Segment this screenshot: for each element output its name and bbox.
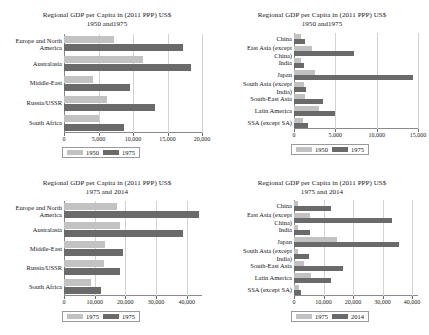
category-label: Middle-East	[30, 80, 62, 88]
x-axis-tick-label: 15,000	[159, 136, 176, 142]
legend-item-1: 1975	[332, 146, 364, 153]
bar-series1	[294, 106, 319, 110]
plot-area-bottom-left: 010,00020,00030,00040,000Europe and Nort…	[64, 201, 202, 296]
bar-series1	[64, 203, 117, 210]
category-row: South Africa	[64, 277, 202, 296]
legend-label-series1: 1950	[315, 146, 328, 153]
category-label: China	[276, 35, 292, 43]
x-axis-tick-label: 30,000	[374, 299, 391, 305]
category-label: South Africa	[29, 119, 62, 127]
bar-series2	[64, 84, 130, 91]
bar-series2	[294, 75, 413, 79]
bar-series1	[294, 201, 298, 205]
legend-item-0: 1975	[296, 313, 328, 320]
legend-label-series2: 1975	[122, 149, 135, 156]
bar-series2	[294, 123, 308, 127]
category-label: Latin America	[255, 274, 292, 282]
category-row: Australasia	[64, 220, 202, 239]
bar-series2	[294, 278, 331, 282]
category-row: Latin America	[294, 105, 418, 117]
category-label: Latin America	[255, 107, 292, 115]
category-row: Japan	[294, 69, 418, 81]
bar-series2	[294, 266, 343, 270]
x-axis-tick-label: 20,000	[345, 299, 362, 305]
bar-series2	[294, 63, 304, 67]
bar-series1	[294, 261, 304, 265]
legend-swatch-series2	[103, 150, 119, 155]
chart-title-bottom-left: Regional GDP per Capita in (2011 PPP) US…	[0, 179, 214, 196]
plot-area-top-left: 05,00010,00015,00020,000Europe and North…	[64, 34, 202, 133]
category-row: China	[294, 33, 418, 45]
category-row: South Africa	[64, 113, 202, 133]
chart-panel-bottom-left: Regional GDP per Capita in (2011 PPP) US…	[0, 168, 214, 335]
legend-swatch-series1	[67, 314, 83, 319]
legend-item-1: 1975	[103, 149, 135, 156]
bar-series1	[64, 76, 93, 83]
plot-area-bottom-right: 010,00020,00030,00040,000ChinaEast Asia …	[294, 200, 418, 296]
chart-title-line2: 1975 and 2014	[215, 188, 429, 197]
bar-series1	[294, 34, 301, 38]
legend-top-right: 1950 1975	[291, 144, 369, 155]
category-label: South-East Asia	[250, 262, 292, 270]
legend-top-left: 1950 1975	[62, 147, 140, 158]
legend-item-1: 2014	[332, 313, 364, 320]
chart-title-top-left: Regional GDP per Capita in (2011 PPP) US…	[0, 11, 214, 28]
legend-swatch-series2	[332, 314, 348, 319]
category-row: Middle-East	[64, 239, 202, 258]
legend-swatch-series1	[296, 147, 312, 152]
category-row: South-East Asia	[294, 260, 418, 272]
category-label: India	[279, 59, 292, 67]
category-label: SSA (except SA)	[248, 286, 292, 294]
legend-label-series2: 1975	[122, 313, 135, 320]
bar-series1	[294, 237, 337, 241]
category-label: India	[279, 226, 292, 234]
bar-series1	[294, 94, 305, 98]
bar-series1	[64, 260, 104, 267]
category-label: Europe and North America	[4, 203, 62, 218]
bar-series2	[64, 268, 120, 275]
bar-series1	[294, 249, 298, 253]
category-row: East Asia (except China)	[294, 212, 418, 224]
bar-series2	[294, 254, 309, 258]
category-row: Europe and North America	[64, 34, 202, 54]
legend-item-0: 1975	[67, 313, 99, 320]
category-row: SSA (except SA)	[294, 284, 418, 296]
legend-swatch-series2	[332, 147, 348, 152]
category-row: Latin America	[294, 272, 418, 284]
gridline	[418, 33, 419, 129]
legend-label-series1: 1975	[315, 313, 328, 320]
legend-swatch-series2	[103, 314, 119, 319]
legend-label-series2: 1975	[351, 146, 364, 153]
chart-title-line2: 1975 and 2014	[0, 188, 214, 197]
bar-series1	[294, 70, 315, 74]
x-axis-tick-label: 5,000	[92, 136, 106, 142]
bar-series2	[64, 124, 124, 131]
bar-series1	[64, 96, 107, 103]
bar-series2	[64, 249, 123, 256]
bar-series2	[64, 44, 183, 51]
legend-swatch-series1	[296, 314, 312, 319]
category-label: Russia/USSR	[27, 264, 62, 272]
chart-title-line2: 1950 and1975	[215, 20, 429, 29]
category-row: Russia/USSR	[64, 258, 202, 277]
bar-series2	[294, 290, 301, 294]
gridline	[202, 34, 203, 133]
category-label: SSA (except SA)	[248, 119, 292, 127]
x-axis-tick-label: 10,000	[125, 136, 142, 142]
category-row: India	[294, 224, 418, 236]
category-row: China	[294, 200, 418, 212]
bar-series2	[294, 99, 323, 103]
category-label: East Asia (except China)	[234, 44, 292, 59]
chart-title-top-right: Regional GDP per Capita in (2011 PPP) US…	[215, 11, 429, 28]
x-axis-tick-label: 20,000	[117, 299, 134, 305]
bar-series1	[64, 241, 105, 248]
legend-item-1: 1975	[103, 313, 135, 320]
bar-series2	[294, 206, 331, 210]
bar-series1	[294, 58, 301, 62]
bar-series1	[294, 118, 303, 122]
bar-series1	[294, 273, 311, 277]
figure-sheet: Regional GDP per Capita in (2011 PPP) US…	[0, 0, 429, 335]
bar-series1	[294, 46, 312, 50]
bar-series1	[294, 225, 298, 229]
x-axis-tick-label: 10,000	[315, 299, 332, 305]
